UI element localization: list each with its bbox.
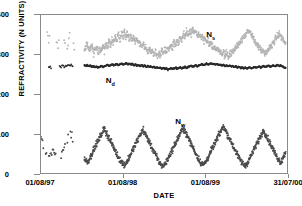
y-tick-label: 100	[0, 130, 9, 139]
y-tick-label: 300	[0, 50, 9, 59]
x-tick-label: 01/08/98	[93, 178, 153, 187]
x-tick-mark	[288, 174, 289, 178]
x-tick-label: 01/08/99	[175, 178, 235, 187]
series-label-ns: Ns	[206, 30, 215, 41]
y-tick-label: 0	[0, 170, 9, 179]
x-axis-title: DATE	[40, 191, 288, 200]
series-points-nd	[48, 62, 287, 71]
y-axis-title: REFRACTIVITY (N UNITS)	[17, 0, 26, 114]
series-label-nw: Nw	[175, 117, 185, 128]
series-points-ns	[46, 27, 286, 60]
plot-area	[40, 14, 288, 174]
x-tick-mark	[123, 174, 124, 178]
y-tick-label: 200	[0, 90, 9, 99]
x-tick-label: 31/07/00	[258, 178, 302, 187]
scatter-plot-svg	[41, 15, 287, 173]
series-points-nw	[41, 124, 287, 169]
y-tick-mark	[34, 174, 40, 175]
series-label-nd: Nd	[106, 76, 115, 87]
y-tick-label: 400	[0, 10, 9, 19]
x-tick-label: 01/08/97	[10, 178, 70, 187]
refractivity-time-series-chart: REFRACTIVITY (N UNITS) 0100200300400 NsN…	[0, 0, 302, 206]
x-tick-mark	[205, 174, 206, 178]
